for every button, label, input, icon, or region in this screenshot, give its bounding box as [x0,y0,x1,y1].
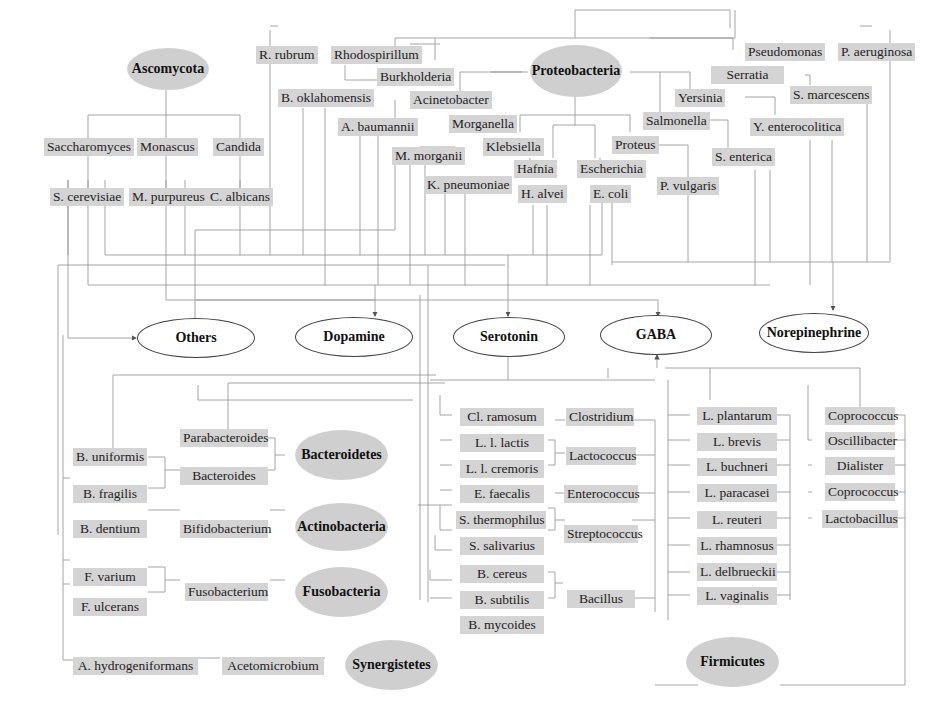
species-l-plantarum: L. plantarum [697,407,777,425]
species-s-marcescens: S. marcescens [790,86,872,104]
genus-coprococcus-1: Coprococcus [825,407,895,425]
species-s-thermophilus: S. thermophilus [456,511,546,529]
species-h-alvei: H. alvei [518,185,567,203]
species-a-baumannii: A. baumannii [338,118,418,136]
species-r-rubrum: R. rubrum [256,46,318,64]
phylum-proteobacteria: Proteobacteria [530,45,622,97]
species-f-ulcerans: F. ulcerans [73,598,147,616]
genus-burkholderia: Burkholderia [377,68,454,86]
species-e-faecalis: E. faecalis [460,485,544,503]
species-b-cereus: B. cereus [460,565,544,583]
genus-clostridium: Clostridium [566,408,634,426]
genus-bacteroides: Bacteroides [180,467,268,485]
species-k-pneumoniae: K. pneumoniae [424,176,512,194]
genus-yersinia: Yersinia [675,89,725,107]
species-l-paracasei: L. paracasei [697,484,777,502]
neurotransmitter-dopamine: Dopamine [295,317,413,357]
species-l-vaginalis: L. vaginalis [697,587,777,605]
species-l-buchneri: L. buchneri [697,458,777,476]
species-p-vulgaris: P. vulgaris [657,177,719,195]
genus-lactococcus: Lactococcus [566,447,636,465]
neurotransmitter-others: Others [137,318,255,358]
phylum-ascomycota: Ascomycota [127,48,209,90]
genus-hafnia: Hafnia [514,160,557,178]
phylum-actinobacteria: Actinobacteria [295,503,388,551]
genus-candida: Candida [213,138,264,156]
neurotransmitter-serotonin: Serotonin [453,317,565,357]
phylum-synergistetes: Synergistetes [345,640,438,690]
species-m-morganii: M. morganii [392,147,465,165]
species-s-salivarius: S. salivarius [460,537,544,555]
genus-bacillus: Bacillus [567,590,635,608]
species-b-oklahomensis: B. oklahomensis [278,89,374,107]
genus-salmonella: Salmonella [643,112,710,130]
genus-escherichia: Escherichia [577,160,646,178]
species-e-coli: E. coli [590,185,631,203]
species-a-hydrogeniformans: A. hydrogeniformans [73,657,198,675]
species-s-enterica: S. enterica [712,148,775,166]
neurotransmitter-gaba: GABA [600,315,712,355]
phylum-firmicutes: Firmicutes [686,637,779,687]
genus-bifidobacterium: Bifidobacterium [180,520,268,538]
genus-oscillibacter: Oscillibacter [825,432,895,450]
species-b-mycoides: B. mycoides [460,616,544,634]
genus-pseudomonas: Pseudomonas [745,43,825,61]
genus-serratia: Serratia [711,66,784,84]
genus-monascus: Monascus [137,138,198,156]
species-b-dentium: B. dentium [73,520,147,538]
genus-dialister: Dialister [825,457,895,475]
species-l-l-cremoris: L. l. cremoris [460,460,544,478]
genus-rhodospirillum: Rhodospirillum [331,46,422,64]
genus-morganella: Morganella [449,115,517,133]
phylum-fusobacteria: Fusobacteria [295,567,388,617]
species-b-subtilis: B. subtilis [460,591,544,609]
species-l-l-lactis: L. l. lactis [460,434,544,452]
species-l-brevis: L. brevis [697,433,777,451]
species-b-fragilis: B. fragilis [73,485,147,503]
genus-lactobacillus: Lactobacillus [822,510,898,528]
genus-enterococcus: Enterococcus [564,485,638,503]
species-l-reuteri: L. reuteri [697,511,777,529]
genus-acetomicrobium: Acetomicrobium [222,657,324,675]
genus-acinetobacter: Acinetobacter [410,91,492,109]
species-m-purpureus: M. purpureus [129,188,208,206]
genus-saccharomyces: Saccharomyces [44,138,134,156]
species-c-albicans: C. albicans [207,188,273,206]
genus-klebsiella: Klebsiella [483,138,544,156]
species-p-aeruginosa: P. aeruginosa [838,43,915,61]
phylum-bacteroidetes: Bacteroidetes [295,430,388,480]
genus-streptococcus: Streptococcus [564,525,638,543]
species-cl-ramosum: Cl. ramosum [460,408,544,426]
species-s-cerevisiae: S. cerevisiae [50,188,124,206]
species-l-delbrueckii: L. delbrueckii [697,563,777,581]
genus-fusobacterium: Fusobacterium [185,583,268,601]
genus-proteus: Proteus [612,136,659,154]
species-y-enterocolitica: Y. enterocolitica [750,118,844,136]
species-b-uniformis: B. uniformis [73,448,147,466]
neurotransmitter-norepinephrine: Norepinephrine [759,313,869,353]
species-f-varium: F. varium [73,568,147,586]
genus-parabacteroides: Parabacteroides [180,429,268,447]
species-l-rhamnosus: L. rhamnosus [697,537,777,555]
genus-coprococcus-2: Coprococcus [825,483,895,501]
